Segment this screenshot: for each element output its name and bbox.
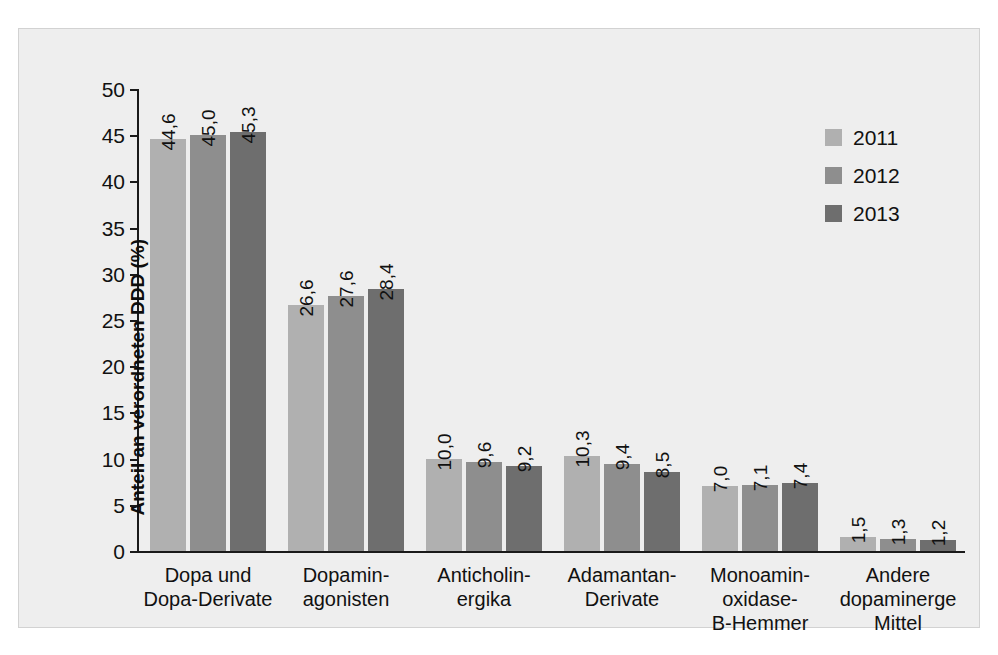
bar-value-label: 27,6 bbox=[327, 270, 346, 307]
y-tick-label: 40 bbox=[102, 171, 125, 192]
category-label-line: Dopamin- bbox=[277, 563, 415, 587]
category-label: Dopamin-agonisten bbox=[277, 563, 415, 611]
legend-item: 2011 bbox=[825, 127, 900, 148]
y-tick-label: 15 bbox=[102, 402, 125, 423]
bar: 8,5 bbox=[644, 472, 680, 551]
category-label: AnderedopaminergeMittel bbox=[829, 563, 967, 635]
bar: 26,6 bbox=[288, 305, 324, 551]
y-tick-mark bbox=[130, 228, 137, 230]
bar-value-label: 7,1 bbox=[741, 465, 760, 491]
bar-value-label: 9,6 bbox=[465, 442, 484, 468]
category-label-line: Adamantan- bbox=[553, 563, 691, 587]
bar-value-label: 7,4 bbox=[781, 462, 800, 488]
category-label: Adamantan-Derivate bbox=[553, 563, 691, 611]
y-tick-mark bbox=[130, 181, 137, 183]
bar: 9,2 bbox=[506, 466, 542, 551]
chart-figure: Anteil an verordneten DDD (%) 0510152025… bbox=[0, 0, 998, 655]
y-tick-mark bbox=[130, 135, 137, 137]
y-tick-label: 20 bbox=[102, 356, 125, 377]
bar: 28,4 bbox=[368, 289, 404, 551]
category-label-line: dopaminerge bbox=[829, 587, 967, 611]
legend-swatch bbox=[825, 129, 842, 146]
bar: 10,3 bbox=[564, 456, 600, 551]
y-tick-mark bbox=[130, 459, 137, 461]
bar-value-label: 1,2 bbox=[919, 520, 938, 546]
bar-value-label: 28,4 bbox=[367, 263, 386, 300]
bar-value-label: 9,4 bbox=[603, 444, 622, 470]
bar-value-label: 10,0 bbox=[425, 433, 444, 470]
bar: 45,3 bbox=[230, 132, 266, 551]
y-tick-mark bbox=[130, 320, 137, 322]
category-label-line: B-Hemmer bbox=[691, 611, 829, 635]
category-label-line: Dopa-Derivate bbox=[139, 587, 277, 611]
bar-value-label: 26,6 bbox=[287, 280, 306, 317]
bar: 1,2 bbox=[920, 540, 956, 551]
category-label-line: agonisten bbox=[277, 587, 415, 611]
category-label-line: Andere bbox=[829, 563, 967, 587]
category-label-line: oxidase- bbox=[691, 587, 829, 611]
bar: 7,0 bbox=[702, 486, 738, 551]
bar: 10,0 bbox=[426, 459, 462, 551]
bar-value-label: 9,2 bbox=[505, 446, 524, 472]
legend-label: 2013 bbox=[853, 203, 900, 224]
y-tick-label: 5 bbox=[113, 494, 125, 515]
y-tick-mark bbox=[130, 366, 137, 368]
chart-legend: 201120122013 bbox=[825, 127, 900, 241]
category-label-line: Dopa und bbox=[139, 563, 277, 587]
y-tick-label: 50 bbox=[102, 79, 125, 100]
bar-value-label: 8,5 bbox=[643, 452, 662, 478]
bar-value-label: 45,0 bbox=[189, 110, 208, 147]
legend-label: 2012 bbox=[853, 165, 900, 186]
legend-item: 2012 bbox=[825, 165, 900, 186]
y-tick-label: 45 bbox=[102, 125, 125, 146]
y-tick-label: 30 bbox=[102, 263, 125, 284]
bar-value-label: 1,3 bbox=[879, 519, 898, 545]
bar: 7,1 bbox=[742, 485, 778, 551]
category-label: Anticholin-ergika bbox=[415, 563, 553, 611]
category-label-line: Derivate bbox=[553, 587, 691, 611]
legend-item: 2013 bbox=[825, 203, 900, 224]
bar: 7,4 bbox=[782, 483, 818, 551]
category-label-line: Mittel bbox=[829, 611, 967, 635]
y-tick-label: 10 bbox=[102, 448, 125, 469]
y-tick-label: 0 bbox=[113, 541, 125, 562]
bar-value-label: 45,3 bbox=[229, 107, 248, 144]
bar-value-label: 7,0 bbox=[701, 466, 720, 492]
y-tick-mark bbox=[130, 505, 137, 507]
category-label-line: Monoamin- bbox=[691, 563, 829, 587]
y-tick-mark bbox=[130, 274, 137, 276]
y-tick-mark bbox=[130, 551, 137, 553]
category-label: Dopa undDopa-Derivate bbox=[139, 563, 277, 611]
category-label-line: ergika bbox=[415, 587, 553, 611]
bar: 9,4 bbox=[604, 464, 640, 551]
y-tick-mark bbox=[130, 89, 137, 91]
legend-label: 2011 bbox=[853, 127, 898, 148]
bar: 9,6 bbox=[466, 462, 502, 551]
x-axis-line bbox=[137, 551, 965, 553]
legend-swatch bbox=[825, 205, 842, 222]
y-tick-mark bbox=[130, 412, 137, 414]
bar: 1,5 bbox=[840, 537, 876, 551]
y-tick-label: 35 bbox=[102, 217, 125, 238]
bar-value-label: 44,6 bbox=[149, 113, 168, 150]
y-tick-label: 25 bbox=[102, 310, 125, 331]
category-label: Monoamin-oxidase-B-Hemmer bbox=[691, 563, 829, 635]
y-axis-title: Anteil an verordneten DDD (%) bbox=[127, 239, 149, 516]
bar: 27,6 bbox=[328, 296, 364, 551]
bar-value-label: 10,3 bbox=[563, 430, 582, 467]
bar: 45,0 bbox=[190, 135, 226, 551]
category-label-line: Anticholin- bbox=[415, 563, 553, 587]
legend-swatch bbox=[825, 167, 842, 184]
chart-panel: Anteil an verordneten DDD (%) 0510152025… bbox=[18, 28, 980, 628]
bar: 44,6 bbox=[150, 139, 186, 551]
bar-value-label: 1,5 bbox=[839, 517, 858, 543]
bar: 1,3 bbox=[880, 539, 916, 551]
